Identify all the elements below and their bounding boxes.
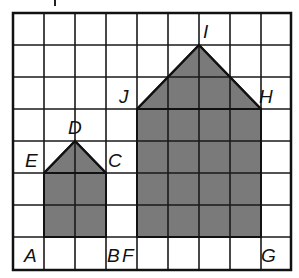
label-c: C: [108, 150, 122, 171]
label-f: F: [122, 245, 135, 266]
label-e: E: [25, 150, 38, 171]
label-g: G: [261, 245, 276, 266]
label-a: A: [23, 245, 37, 266]
label-d: D: [68, 117, 82, 138]
label-i: I: [203, 21, 209, 42]
label-j: J: [118, 86, 129, 107]
cropped-text-fragment: [54, 0, 56, 6]
label-b: B: [107, 245, 120, 266]
label-h: H: [259, 86, 273, 107]
grid-diagram: A B F G E C D J H I: [0, 0, 299, 278]
